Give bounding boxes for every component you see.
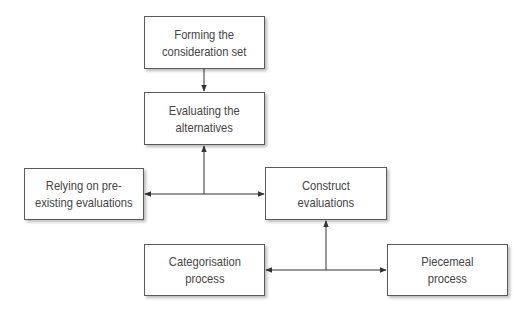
node-relying-pre-existing-evaluations: Relying on pre- existing evaluations [24,168,144,220]
node-categorisation-process: Categorisation process [144,244,265,296]
node-forming-consideration-set: Forming the consideration set [144,16,265,69]
node-piecemeal-process: Piecemeal process [387,244,508,296]
node-label: Evaluating the alternatives [169,102,240,136]
flow-diagram: Forming the consideration set Evaluating… [0,0,532,318]
node-label: Piecemeal process [421,253,473,287]
node-label: Categorisation process [168,253,240,287]
node-construct-evaluations: Construct evaluations [265,167,387,220]
node-label: Forming the consideration set [162,26,247,60]
node-label: Relying on pre- existing evaluations [35,177,133,211]
node-label: Construct evaluations [298,177,355,211]
node-evaluating-alternatives: Evaluating the alternatives [144,92,265,145]
